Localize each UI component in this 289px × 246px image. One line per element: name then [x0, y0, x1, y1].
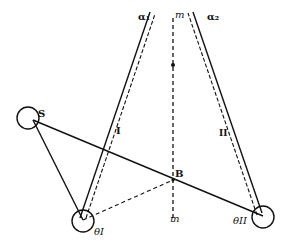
label-ray-I: I [116, 125, 121, 136]
crossing-point [171, 63, 175, 67]
ray-I-dashed [86, 14, 155, 218]
observer-circle-thetaII [252, 206, 274, 228]
ray-II-solid [193, 12, 262, 213]
line-S-thetaI [33, 120, 83, 220]
ray-I-solid [80, 12, 150, 218]
label-ray-II: II [219, 128, 227, 138]
label-alpha1: α₁ [138, 11, 150, 22]
label-thetaI: θI [94, 226, 105, 237]
observer-circle-thetaI [72, 210, 94, 232]
source-circle-S [17, 107, 39, 129]
label-m-bottom: m [170, 213, 179, 224]
line-S-thetaII [33, 120, 263, 216]
label-alpha2: α₂ [207, 11, 219, 22]
optics-diagram: α₁ α₂ m m S B I II θI θII [0, 0, 289, 246]
label-B: B [175, 168, 183, 179]
ray-II-dashed [188, 13, 257, 215]
label-m-top: m [175, 9, 184, 20]
label-S: S [38, 108, 45, 119]
label-thetaII: θII [233, 215, 248, 226]
